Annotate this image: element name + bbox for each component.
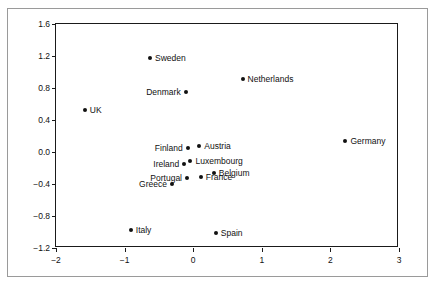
data-point-label: UK: [90, 105, 102, 114]
x-tick-label: 2: [328, 256, 333, 265]
x-tick-label: −1: [120, 256, 130, 265]
x-tick-label: 3: [397, 256, 402, 265]
y-tick-label: −0.4: [33, 180, 50, 189]
data-point: [188, 159, 192, 163]
x-tick-mark: [125, 248, 126, 252]
x-tick-mark: [262, 248, 263, 252]
data-point: [83, 108, 87, 112]
data-point-label: Sweden: [155, 54, 186, 63]
data-point-label: Spain: [221, 229, 243, 238]
x-tick-mark: [399, 248, 400, 252]
x-tick-label: −2: [51, 256, 61, 265]
y-tick-label: −0.8: [33, 212, 50, 221]
data-point: [214, 231, 218, 235]
plot-area: 1.61.20.80.40.0−0.4−0.8−1.2 −2−10123 Swe…: [55, 23, 398, 247]
data-point-label: Netherlands: [248, 75, 294, 84]
data-point: [182, 162, 186, 166]
data-point-label: Germany: [350, 137, 385, 146]
x-tick-mark: [56, 248, 57, 252]
y-tick-mark: [52, 88, 56, 89]
y-tick-label: 1.6: [38, 20, 50, 29]
y-tick-mark: [52, 24, 56, 25]
y-tick-label: 0.0: [38, 148, 50, 157]
y-tick-label: 0.4: [38, 116, 50, 125]
y-tick-label: 0.8: [38, 84, 50, 93]
data-point-label: Austria: [204, 142, 230, 151]
data-point: [197, 144, 201, 148]
y-tick-mark: [52, 120, 56, 121]
x-tick-label: 0: [191, 256, 196, 265]
data-point-label: Ireland: [153, 160, 179, 169]
data-point: [170, 182, 174, 186]
y-tick-label: 1.2: [38, 52, 50, 61]
y-tick-mark: [52, 56, 56, 57]
data-point: [241, 77, 245, 81]
data-point: [129, 228, 133, 232]
data-point-label: Greece: [139, 180, 167, 189]
y-tick-mark: [52, 216, 56, 217]
data-point: [199, 175, 203, 179]
x-tick-mark: [193, 248, 194, 252]
y-tick-label: −1.2: [33, 244, 50, 253]
data-point-label: Denmark: [146, 88, 180, 97]
data-point-label: Luxembourg: [195, 157, 242, 166]
data-point: [186, 146, 190, 150]
y-tick-mark: [52, 152, 56, 153]
data-point-label: Italy: [136, 225, 152, 234]
data-point: [185, 176, 189, 180]
data-point-label: Finland: [155, 144, 183, 153]
data-point: [184, 90, 188, 94]
data-point: [343, 139, 347, 143]
data-point-label: France: [206, 173, 232, 182]
x-tick-mark: [330, 248, 331, 252]
data-point: [148, 56, 152, 60]
x-tick-label: 1: [259, 256, 264, 265]
figure: 1.61.20.80.40.0−0.4−0.8−1.2 −2−10123 Swe…: [0, 0, 437, 288]
y-tick-mark: [52, 184, 56, 185]
